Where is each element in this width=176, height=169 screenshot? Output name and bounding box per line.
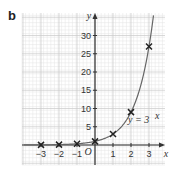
y-tick-label: 20 bbox=[81, 67, 91, 77]
x-tick-label: −3 bbox=[36, 149, 46, 159]
x-tick-label: 3 bbox=[146, 149, 151, 159]
exponential-chart: −3−2−112351015202530 xyOy = 3x bbox=[0, 0, 176, 169]
y-tick-label: 15 bbox=[81, 85, 91, 95]
curve-label-exponent: x bbox=[154, 110, 160, 121]
x-tick-label: 2 bbox=[128, 149, 133, 159]
y-axis-label: y bbox=[86, 10, 92, 21]
x-axis-label: x bbox=[163, 148, 169, 159]
curve-label: y = 3 bbox=[127, 114, 149, 125]
x-tick-label: 1 bbox=[110, 149, 115, 159]
y-tick-label: 5 bbox=[86, 122, 91, 132]
x-tick-label: −2 bbox=[54, 149, 64, 159]
y-axis-arrow-icon bbox=[93, 13, 98, 19]
y-tick-label: 10 bbox=[81, 104, 91, 114]
y-tick-label: 30 bbox=[81, 31, 91, 41]
x-tick-label: −1 bbox=[72, 149, 82, 159]
y-tick-label: 25 bbox=[81, 49, 91, 59]
origin-label: O bbox=[84, 146, 91, 157]
